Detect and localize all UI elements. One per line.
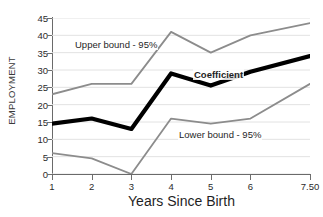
y-tick-label: 10 [26,134,48,145]
employment-line-chart: EMPLOYMENT 051015202530354045 1234567.50… [0,0,323,217]
x-tick-label: 3 [129,181,134,192]
x-axis-title: Years Since Birth [52,193,311,209]
x-tick-mark [131,175,132,180]
x-tick-mark [250,175,251,180]
series-annotation-lower-bound: Lower bound - 95% [178,129,262,140]
x-tick-mark [211,175,212,180]
y-tick-label: 5 [26,151,48,162]
x-tick-label: 2 [89,181,94,192]
x-tick-mark [92,175,93,180]
series-line-0 [52,23,310,94]
x-tick-label: 7.50 [301,181,320,192]
y-tick-label: 45 [26,13,48,24]
x-tick-label: 1 [49,181,54,192]
y-tick-label: 15 [26,117,48,128]
x-tick-mark [52,175,53,180]
x-tick-label: 4 [168,181,173,192]
x-tick-mark [171,175,172,180]
x-tick-mark [310,175,311,180]
x-tick-label: 5 [208,181,213,192]
y-tick-label: 40 [26,30,48,41]
series-line-1 [52,56,310,129]
y-tick-label: 30 [26,65,48,76]
y-axis-title: EMPLOYMENT [0,0,22,180]
y-tick-label: 35 [26,47,48,58]
y-axis-title-label: EMPLOYMENT [6,56,17,125]
y-tick-label: 25 [26,82,48,93]
x-tick-label: 6 [248,181,253,192]
series-annotation-coefficient: Coefficient [193,69,244,80]
series-annotation-upper-bound: Upper bound - 95% [74,39,158,50]
y-tick-label: 20 [26,99,48,110]
